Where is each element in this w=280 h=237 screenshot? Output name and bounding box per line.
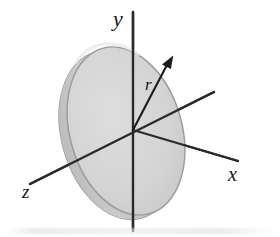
radius-label-r: r bbox=[145, 76, 152, 93]
coordinate-system-diagram bbox=[0, 0, 280, 237]
axis-label-y: y bbox=[113, 8, 123, 30]
disk-group bbox=[39, 29, 204, 233]
page-scan-artifact bbox=[6, 228, 274, 234]
axis-label-x: x bbox=[228, 164, 237, 184]
disk-front-face bbox=[48, 33, 203, 229]
axis-label-z: z bbox=[22, 182, 29, 201]
radius-arrow-head bbox=[162, 53, 177, 69]
figure-container: y x z r bbox=[0, 0, 280, 237]
